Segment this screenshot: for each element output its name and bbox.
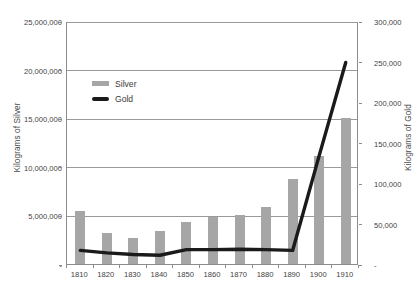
bar-silver-1870 [235, 215, 245, 264]
bar-silver-1880 [261, 207, 271, 264]
x-axis-tick-mark [252, 265, 253, 268]
bar-silver-1840 [155, 231, 165, 264]
x-axis-label-1810: 1810 [71, 270, 88, 279]
y-axis-left-tick-label: 15,000,000 [24, 115, 62, 124]
y-axis-left-tick-label: 25,000,000 [24, 18, 62, 27]
gridline [67, 22, 357, 23]
y-axis-left-tick-label: 5,000,000 [28, 212, 62, 221]
y-axis-right-tick-mark [359, 265, 362, 266]
y-axis-right-tick-label: 100,000 [374, 180, 401, 189]
x-axis-tick-mark [93, 265, 94, 268]
y-axis-right-tick-label: 200,000 [374, 99, 401, 108]
plot-area [66, 22, 358, 265]
x-axis-tick-mark [66, 265, 67, 268]
bar-silver-1830 [128, 238, 138, 264]
x-axis-label-1900: 1900 [310, 270, 327, 279]
y-axis-right-tick-mark [359, 22, 362, 23]
x-axis-label-1830: 1830 [124, 270, 141, 279]
chart-container: Kilograms of Silver Kilograms of Gold -5… [0, 0, 420, 293]
y-axis-right-tick-mark [359, 62, 362, 63]
y-axis-left-title: Kilograms of Silver [13, 73, 22, 203]
bar-silver-1860 [208, 217, 218, 264]
y-axis-left-tick-label: 10,000,000 [24, 163, 62, 172]
x-axis-tick-mark [278, 265, 279, 268]
x-axis-tick-mark [331, 265, 332, 268]
y-axis-left-tick-mark [59, 119, 62, 120]
legend-swatch-gold-icon [92, 97, 109, 101]
x-axis-tick-mark [225, 265, 226, 268]
y-axis-right-tick-label: 300,000 [374, 18, 401, 27]
gridline [67, 70, 357, 71]
y-axis-right-tick-label: 250,000 [374, 58, 401, 67]
bar-silver-1910 [341, 118, 351, 264]
y-axis-right-tick-label: - [374, 261, 377, 270]
x-axis-label-1840: 1840 [150, 270, 167, 279]
y-axis-right-tick-label: 150,000 [374, 139, 401, 148]
x-axis-tick-mark [172, 265, 173, 268]
legend-label-silver: Silver [115, 79, 137, 89]
y-axis-left-tick-mark [59, 22, 62, 23]
legend-swatch-silver-icon [92, 81, 109, 86]
y-axis-right-tick-label: 50,000 [374, 220, 397, 229]
x-axis-label-1820: 1820 [97, 270, 114, 279]
y-axis-left-tick-mark [59, 167, 62, 168]
y-axis-left-tick-mark [59, 70, 62, 71]
y-axis-right-tick-mark [359, 224, 362, 225]
x-axis-tick-mark [119, 265, 120, 268]
y-axis-left-tick-mark [59, 265, 62, 266]
legend-label-gold: Gold [115, 94, 133, 104]
x-axis-label-1880: 1880 [257, 270, 274, 279]
x-axis-tick-mark [199, 265, 200, 268]
x-axis-label-1860: 1860 [204, 270, 221, 279]
legend-item-silver: Silver [92, 76, 137, 91]
legend-item-gold: Gold [92, 91, 137, 106]
y-axis-left-tick-mark [59, 216, 62, 217]
chart-legend: Silver Gold [92, 76, 137, 106]
y-axis-right-tick-mark [359, 184, 362, 185]
gridline [67, 119, 357, 120]
bar-silver-1900 [314, 156, 324, 264]
x-axis-tick-mark [358, 265, 359, 268]
x-axis-tick-mark [305, 265, 306, 268]
bar-silver-1850 [181, 222, 191, 264]
x-axis-label-1910: 1910 [336, 270, 353, 279]
x-axis-label-1850: 1850 [177, 270, 194, 279]
x-axis-label-1870: 1870 [230, 270, 247, 279]
bar-silver-1810 [75, 211, 85, 264]
y-axis-right-tick-mark [359, 103, 362, 104]
y-axis-right-tick-mark [359, 143, 362, 144]
x-axis-tick-mark [146, 265, 147, 268]
x-axis-label-1890: 1890 [283, 270, 300, 279]
bar-silver-1890 [288, 179, 298, 264]
y-axis-right-title: Kilograms of Gold [404, 73, 413, 203]
bar-silver-1820 [102, 233, 112, 264]
y-axis-left-tick-label: 20,000,000 [24, 66, 62, 75]
